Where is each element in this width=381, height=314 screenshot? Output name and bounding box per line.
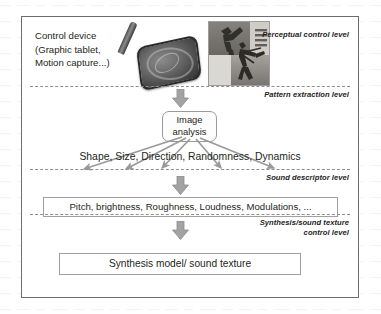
control-device-caption: Control device (Graphic tablet, Motion c…: [35, 29, 110, 70]
down-arrow-to-synthesis-model: [172, 221, 189, 240]
node-image-features: Shape, Size, Direction, Randomness, Dyna…: [22, 151, 358, 162]
level-label-sound-descriptor: Sound descriptor level: [266, 173, 349, 183]
level-label-pattern-extraction: Pattern extraction level: [264, 90, 349, 100]
level-separator-2: [30, 169, 350, 170]
node-synthesis-model: Synthesis model/ sound texture: [59, 253, 301, 275]
level-separator-3: [30, 214, 350, 215]
down-arrow-to-image-analysis: [172, 89, 189, 108]
level-label-perceptual: Perceptual control level: [262, 30, 349, 40]
diagram-frame: Control device (Graphic tablet, Motion c…: [21, 16, 359, 298]
graphic-tablet-illustration: [118, 19, 206, 91]
level-label-synthesis-control: Synthesis/sound texture control level: [260, 218, 349, 238]
down-arrow-to-sound-descriptors: [172, 176, 189, 195]
stylus-icon: [117, 21, 137, 55]
graphic-tablet-icon: [136, 35, 202, 92]
motion-capture-photo: [208, 21, 270, 86]
level-separator-1: [30, 86, 350, 87]
